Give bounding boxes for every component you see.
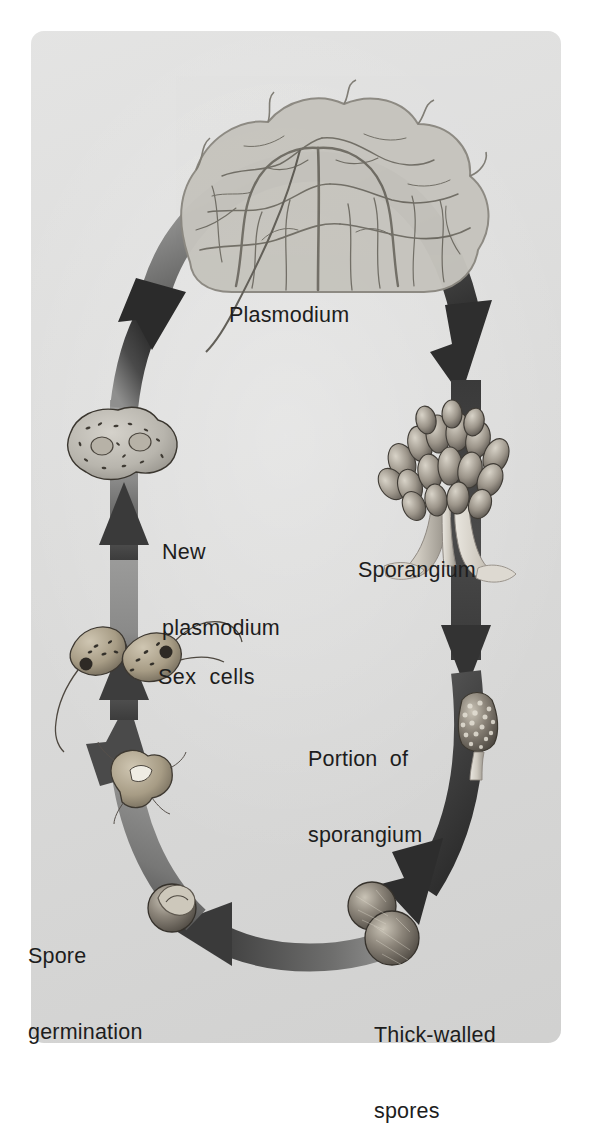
label-plasmodium: Plasmodium (229, 303, 349, 328)
illustration-germinating-spore (148, 884, 196, 932)
label-spore-germination-line2: germination (28, 1020, 143, 1045)
label-thick-walled-line2: spores (374, 1099, 496, 1124)
label-portion-line1: Portion of (308, 747, 422, 772)
label-portion-of-sporangium: Portion of sporangium (308, 697, 422, 898)
label-portion-line2: sporangium (308, 823, 422, 848)
label-spore-germination-line1: Spore (28, 944, 143, 969)
label-sex-cells: Sex cells (158, 665, 255, 690)
sporangium-heads (373, 400, 514, 524)
label-new-plasmodium-line2: plasmodium (162, 616, 280, 641)
illustration-sporangium-cluster (373, 400, 516, 582)
label-thick-walled-line1: Thick-walled (374, 1023, 496, 1048)
label-new-plasmodium-line1: New (162, 540, 280, 565)
label-sporangium: Sporangium (358, 558, 476, 583)
illustration-new-plasmodium-cell (68, 407, 177, 479)
label-new-plasmodium: New plasmodium (162, 490, 280, 691)
label-thick-walled-spores: Thick-walled spores (374, 973, 496, 1127)
label-spore-germination: Spore germination (28, 894, 143, 1095)
